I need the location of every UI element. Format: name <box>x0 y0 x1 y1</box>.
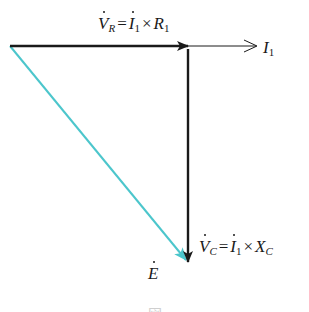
i1-label: I1 <box>263 39 274 58</box>
phasor-dot-e: E <box>148 265 158 282</box>
vr-equation-label: VR=I1×R1 <box>98 15 169 34</box>
phasor-dot-i: I <box>129 15 135 32</box>
phasor-dot-v: V <box>199 238 209 255</box>
e-vector <box>10 46 186 260</box>
figure-caption: 図 <box>0 303 309 312</box>
e-label: E <box>148 265 158 282</box>
vc-equation-label: VC=I1×XC <box>199 238 273 257</box>
phasor-dot-v: V <box>98 15 108 32</box>
phasor-dot-i: I <box>230 238 236 255</box>
